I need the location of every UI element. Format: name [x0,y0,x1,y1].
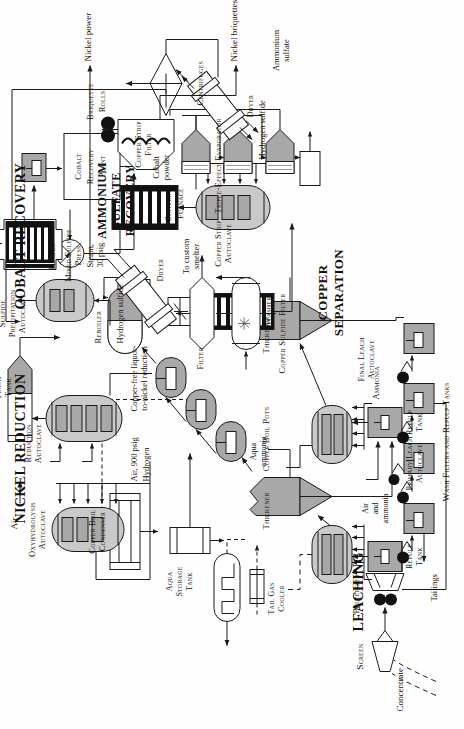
equipment-sulfide-precip-autoclave-line3: Autoclave [18,271,27,355]
equipment-copper-strip-filter-line1: Copper Strip [134,105,143,183]
equipment-copper-boil-condenser-line2: Condenser [98,479,107,583]
equipment-washer: Washer [264,296,273,325]
equipment-copper-strip-autoclave-line2: Autoclave [224,201,233,285]
stream-hydrogen-sulfide-cobalt: Hydrogen sulfide [116,284,125,343]
stream-nickel-power: Nickel power [84,12,93,61]
equipment-triple-effect-evaporator: Triple-Effect Evaporator [214,118,223,213]
stream-copper-free-liquor-line2: to-nickel reduction [140,323,149,433]
section-ammonium-sulfate-line2: SULFATE [110,145,122,255]
stream-to-custom-smelter-line2: smelter [192,223,201,289]
equipment-final-leach-autoclave-line1: Final Leach [358,319,366,399]
stream-steam-line1: Steam, [86,244,95,267]
stream-cobalt-powder-line1: Cobalt [152,139,161,195]
equipment-dryer-sulfate: Dryer [246,94,255,117]
equipment-cobalt-recovery-plant-line2: Recovery [86,133,95,199]
equipment-tail-gas-cooler-line2: Cooler [278,569,286,627]
stream-copper-free-liquor-line1: Copper-free liquor- [130,323,139,433]
equipment-aqua-storage-tank-line3: Tank [186,557,194,605]
equipment-mixed-sulfide-press-line1: Mixed Sulfide [64,211,73,299]
stream-air: Air [10,517,19,529]
equipment-sintering-furnace-line1: Sintering [164,171,173,235]
stream-hydrogen-sulfide-copper: Hydrogen sulfide [258,100,267,159]
equipment-repulp-tank-2-line2: Tank [416,401,424,443]
equipment-copper-boil-pots: Copper Boil Pots [262,406,271,471]
stream-air-line1: Air [362,491,370,525]
equipment-flash-tank-line2: Tank [4,367,13,407]
stream-hydrogen: Hydrogen [142,447,151,481]
equipment-heater: Heater [48,243,57,269]
stream-nickel-briquettes: Nickel briquettes [230,0,239,61]
stream-ammonia-line3: ammonia [382,485,390,531]
equipment-reboiler: Reboiler [94,310,103,343]
stream-ammonium-sulfate-line2: sulfate [282,15,291,85]
equipment-copper-boil-condenser-line1: Copper Boil [88,479,97,583]
diagram-page: LEACHING COPPER SEPARATION NICKEL REDUCT… [0,0,464,729]
equipment-sulfide-precip-autoclave-line2: Precipitation [8,271,17,355]
stream-steam-line2: 30 psig [96,242,105,267]
equipment-cobalt-recovery-plant-line3: Plant [98,133,107,199]
equipment-briquette-rolls-line2: Rolls [98,71,107,131]
equipment-pulverizer: Pulverizer [352,573,361,613]
equipment-repulp-tank-2-line1: Repulp [406,401,414,443]
equipment-mixed-sulfide-press-line2: Press [74,211,83,299]
equipment-thickener-1: Thickener [262,492,271,529]
equipment-sintering-furnace-line2: Furnace [176,171,185,235]
equipment-oxyhydrolysis-autoclave-line2: Autoclave [38,469,47,589]
equipment-copper-sulfide-filter: Copper Sulfide Filter [278,293,287,373]
stream-ammonium-sulfate-line1: Ammonium [272,15,281,85]
equipment-final-leach-autoclave-line2: Autoclave [368,319,376,399]
section-copper-separation-line1: COPPER [316,247,329,337]
equipment-briquette-rolls-line1: Briquette [86,71,95,131]
equipment-centrifuges: Centrifuges [196,60,205,105]
section-copper-separation-line2: SEPARATION [332,235,345,349]
stream-tailings: Tailings [430,574,439,601]
equipment-reduction-autoclave-line2: Autoclave [34,405,43,481]
equipment-repulp-tank-1-line2: Tank [416,535,424,577]
stream-and-line2: and [372,491,380,525]
equipment-sulfide-precip-autoclave-line1: Sulfide [0,271,7,355]
diagram-rotated-canvas: LEACHING COPPER SEPARATION NICKEL REDUCT… [0,0,464,729]
equipment-aqua-storage-tank-line2: Storage [176,557,184,605]
stream-concentrate: Concentrate [396,668,405,711]
equipment-filter: Filter [196,347,205,369]
stream-aqua-ammonia-line1: Aqua [250,429,258,473]
equipment-screen: Screen [356,643,365,669]
equipment-reduction-autoclave-line1: Reduction [24,405,33,481]
process-flow-svg [0,0,464,729]
stream-air-900-psig: Air, 900 psig [130,437,139,481]
equipment-copper-strip-autoclave-line1: Copper Strip [214,201,223,285]
equipment-tail-gas-cooler-line1: Tail Gas [268,569,276,627]
equipment-oxyhydrolysis-autoclave-line1: Oxyhydrolysis [28,469,37,589]
equipment-aqua-storage-tank-line1: Aqua [166,557,174,605]
equipment-cobalt-recovery-plant-line1: Cobalt [74,133,83,199]
equipment-wash-filters: Wash Filters and Repulp Tanks [442,382,451,501]
equipment-dryer-nickel: Dryer [156,258,165,281]
equipment-repulp-tank-1-line1: Repulp [406,535,414,577]
